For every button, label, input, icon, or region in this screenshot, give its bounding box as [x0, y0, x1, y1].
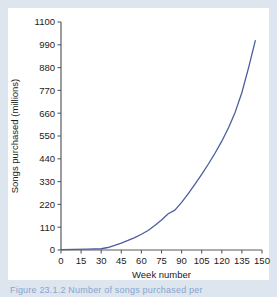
data-series-line: [61, 41, 255, 250]
line-chart: 01102203304405506607708809901100 0153045…: [0, 0, 277, 297]
x-tick-label: 45: [116, 255, 127, 266]
x-tick-label: 30: [96, 255, 107, 266]
x-tick-label: 60: [136, 255, 147, 266]
x-axis-tick-labels: 0153045607590105120135150: [58, 255, 270, 266]
y-tick-label: 440: [39, 153, 55, 164]
x-tick-label: 120: [214, 255, 230, 266]
x-tick-label: 105: [194, 255, 210, 266]
x-tick-label: 90: [176, 255, 187, 266]
y-tick-label: 660: [39, 108, 55, 119]
x-tick-label: 0: [58, 255, 63, 266]
y-tick-label: 220: [39, 199, 55, 210]
figure-caption: Figure 23.1.2 Number of songs purchased …: [10, 285, 270, 295]
y-axis-title: Songs purchased (millions): [9, 79, 20, 194]
figure-container: 01102203304405506607708809901100 0153045…: [0, 0, 277, 297]
y-tick-label: 330: [39, 176, 55, 187]
y-tick-label: 110: [40, 222, 55, 233]
y-tick-label: 550: [39, 130, 55, 141]
y-tick-label: 0: [50, 244, 55, 255]
x-tick-label: 150: [254, 255, 270, 266]
x-tick-label: 75: [156, 255, 167, 266]
y-tick-label: 880: [39, 62, 55, 73]
x-tick-label: 15: [76, 255, 87, 266]
x-axis-title: Week number: [132, 269, 191, 280]
y-tick-label: 1100: [35, 16, 55, 27]
y-axis-tick-labels: 01102203304405506607708809901100: [35, 16, 55, 255]
x-tick-label: 135: [234, 255, 250, 266]
y-tick-label: 990: [39, 39, 55, 50]
y-tick-label: 770: [39, 85, 55, 96]
